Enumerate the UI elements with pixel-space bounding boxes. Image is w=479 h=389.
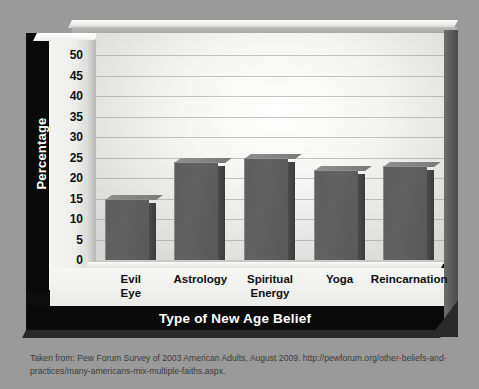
bar-side-face [288, 162, 295, 261]
y-axis-tick-label: 45 [49, 70, 83, 82]
gridline [96, 137, 444, 138]
y-axis-tick-label: 35 [49, 111, 83, 123]
bar [105, 199, 149, 261]
y-axis-tick-label: 0 [49, 254, 83, 266]
gridline [96, 117, 444, 118]
bar-front-face [314, 170, 358, 260]
figure-caption: Taken from: Pew Forum Survey of 2003 Ame… [30, 352, 458, 378]
y-axis-title: Percentage [34, 79, 49, 229]
bar-side-face [358, 174, 365, 260]
chart-figure: Percentage 05101520253035404550 EvilEyeA… [0, 0, 479, 389]
y-axis-tick-label: 50 [49, 49, 83, 61]
bar-side-face [218, 166, 225, 260]
bar [314, 170, 358, 260]
bar-front-face [383, 166, 427, 260]
y-axis-tick-label: 10 [49, 213, 83, 225]
y-axis-tick-label: 20 [49, 172, 83, 184]
x-axis-title-band: Type of New Age Belief [26, 306, 444, 330]
x-axis-title: Type of New Age Belief [159, 311, 311, 326]
frame-bottom-shadow [22, 330, 444, 338]
bar-front-face [105, 199, 149, 261]
y-axis-tick-label: 15 [49, 193, 83, 205]
bar-front-face [244, 158, 288, 261]
gridline [96, 96, 444, 97]
gridline [96, 55, 444, 56]
y-axis-strip-edge [88, 40, 96, 290]
y-axis-tick-label: 40 [49, 90, 83, 102]
y-axis-tick-label: 30 [49, 131, 83, 143]
bar [174, 162, 218, 260]
y-axis-tick-label: 5 [49, 234, 83, 246]
bar-side-face [149, 203, 156, 261]
y-axis-tick-label: 25 [49, 152, 83, 164]
bar-front-face [174, 162, 218, 260]
bar [383, 166, 427, 260]
x-axis-category-strip: EvilEyeAstrologySpiritualEnergyYogaReinc… [50, 268, 444, 306]
gridline [96, 76, 444, 77]
bar-side-face [427, 170, 434, 260]
bar [244, 158, 288, 261]
y-axis-title-band: Percentage [26, 38, 50, 291]
plot-area [96, 33, 444, 262]
x-axis-tick-label: Reincarnation [359, 272, 459, 286]
